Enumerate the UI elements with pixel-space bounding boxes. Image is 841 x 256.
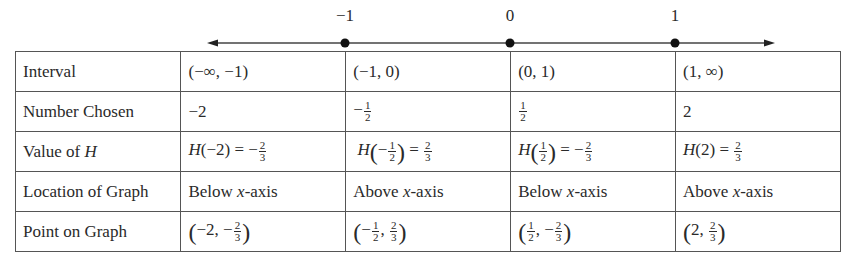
tick-label-neg1: −1 (336, 6, 354, 26)
table-row-location: Location of Graph Below x-axis Above x-a… (16, 172, 841, 212)
row-header: Interval (16, 52, 181, 92)
interval-cell: (−∞, −1) (181, 52, 346, 92)
table-row-point: Point on Graph (−2, −23) (−12, 23) (12, … (16, 212, 841, 252)
number-chosen-cell: 12 (511, 92, 676, 132)
number-chosen-cell: −2 (181, 92, 346, 132)
number-chosen-cell: 2 (676, 92, 841, 132)
right-arrow-icon (764, 40, 775, 47)
point-cell: (−12, 23) (346, 212, 511, 252)
point-cell: (2, 23) (676, 212, 841, 252)
interval-cell: (0, 1) (511, 52, 676, 92)
point-neg1-icon (341, 39, 350, 48)
value-of-h-cell: H(−2) = −23 (181, 132, 346, 172)
sign-chart-table: Interval (−∞, −1) (−1, 0) (0, 1) (1, ∞) … (15, 51, 841, 252)
location-cell: Below x-axis (511, 172, 676, 212)
point-1-icon (671, 39, 680, 48)
table-row-interval: Interval (−∞, −1) (−1, 0) (0, 1) (1, ∞) (16, 52, 841, 92)
fraction: 12 (519, 100, 527, 123)
location-cell: Below x-axis (181, 172, 346, 212)
location-cell: Above x-axis (346, 172, 511, 212)
point-cell: (12, −23) (511, 212, 676, 252)
number-line: −1 0 1 (0, 0, 841, 52)
number-line-axis (0, 0, 841, 52)
interval-cell: (−1, 0) (346, 52, 511, 92)
interval-cell: (1, ∞) (676, 52, 841, 92)
point-0-icon (506, 39, 515, 48)
row-header: Number Chosen (16, 92, 181, 132)
point-cell: (−2, −23) (181, 212, 346, 252)
table-row-value-of-h: Value of H H(−2) = −23 H(−12) = 23 H(12)… (16, 132, 841, 172)
row-header: Point on Graph (16, 212, 181, 252)
tick-label-0: 0 (506, 6, 515, 26)
number-chosen-cell: −12 (346, 92, 511, 132)
row-header: Value of H (16, 132, 181, 172)
value-of-h-cell: H(12) = −23 (511, 132, 676, 172)
value-of-h-cell: H(−12) = 23 (346, 132, 511, 172)
tick-label-1: 1 (671, 6, 680, 26)
row-header: Location of Graph (16, 172, 181, 212)
left-arrow-icon (207, 40, 218, 47)
fraction: 12 (364, 100, 372, 123)
location-cell: Above x-axis (676, 172, 841, 212)
value-of-h-cell: H(2) = 23 (676, 132, 841, 172)
table-row-number-chosen: Number Chosen −2 −12 12 2 (16, 92, 841, 132)
